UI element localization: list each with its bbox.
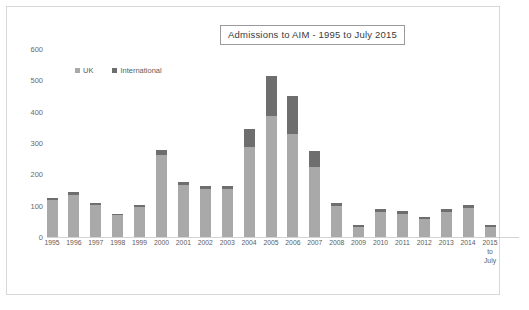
bar-column[interactable]	[485, 225, 496, 237]
y-axis-tick-label: 400	[9, 107, 43, 116]
bar-column[interactable]	[309, 151, 320, 237]
bar-segment-uk	[397, 214, 408, 237]
y-axis-tick-label: 300	[9, 139, 43, 148]
bar-segment-uk	[309, 167, 320, 238]
bar-column[interactable]	[375, 209, 386, 237]
bar-column[interactable]	[441, 209, 452, 237]
bar-column[interactable]	[287, 96, 298, 237]
bar-segment-international	[244, 129, 255, 147]
bar-segment-international	[287, 96, 298, 134]
bar-column[interactable]	[68, 192, 79, 237]
bar-segment-uk	[47, 200, 58, 237]
bar-column[interactable]	[134, 205, 145, 237]
bar-segment-uk	[287, 134, 298, 237]
bar-column[interactable]	[178, 182, 189, 237]
bar-segment-uk	[222, 189, 233, 237]
bar-column[interactable]	[331, 203, 342, 237]
y-axis: 0100200300400500600	[7, 7, 43, 237]
bar-segment-uk	[419, 219, 430, 237]
chart-frame: Admissions to AIM - 1995 to July 2015 UK…	[6, 6, 500, 295]
y-axis-tick-label: 500	[9, 76, 43, 85]
bar-segment-uk	[375, 212, 386, 237]
bar-segment-uk	[178, 185, 189, 237]
bar-segment-uk	[68, 195, 79, 237]
bar-column[interactable]	[397, 211, 408, 237]
bar-column[interactable]	[90, 203, 101, 237]
bar-segment-international	[309, 151, 320, 167]
bar-column[interactable]	[222, 186, 233, 237]
y-axis-tick-label: 100	[9, 201, 43, 210]
bar-segment-uk	[244, 147, 255, 237]
bar-segment-uk	[485, 227, 496, 237]
bar-segment-uk	[112, 215, 123, 237]
bar-column[interactable]	[156, 150, 167, 237]
bar-segment-uk	[134, 207, 145, 237]
bar-column[interactable]	[244, 129, 255, 237]
bar-column[interactable]	[353, 225, 364, 237]
bar-segment-uk	[90, 205, 101, 237]
x-axis-tick-line: to	[475, 247, 505, 256]
x-axis-tick-line: 2015	[475, 238, 505, 247]
bar-column[interactable]	[112, 214, 123, 238]
bar-segment-uk	[266, 116, 277, 237]
bar-column[interactable]	[463, 205, 474, 237]
bar-column[interactable]	[47, 198, 58, 237]
bar-segment-uk	[441, 212, 452, 237]
x-axis-tick-line: July	[475, 256, 505, 265]
bar-column[interactable]	[200, 186, 211, 237]
x-axis: 1995199619971998199920002001200220032004…	[7, 238, 529, 298]
y-axis-tick-label: 600	[9, 45, 43, 54]
bar-segment-uk	[156, 155, 167, 237]
x-axis-tick-label: 2015toJuly	[475, 238, 505, 265]
y-axis-tick-label: 200	[9, 170, 43, 179]
plot-area	[47, 49, 519, 237]
chart-title: Admissions to AIM - 1995 to July 2015	[220, 25, 405, 45]
bar-segment-uk	[331, 206, 342, 237]
bar-segment-uk	[463, 208, 474, 237]
bar-segment-uk	[353, 227, 364, 237]
bar-segment-uk	[200, 189, 211, 237]
bar-column[interactable]	[419, 217, 430, 237]
bar-segment-international	[266, 76, 277, 117]
bar-column[interactable]	[266, 76, 277, 237]
